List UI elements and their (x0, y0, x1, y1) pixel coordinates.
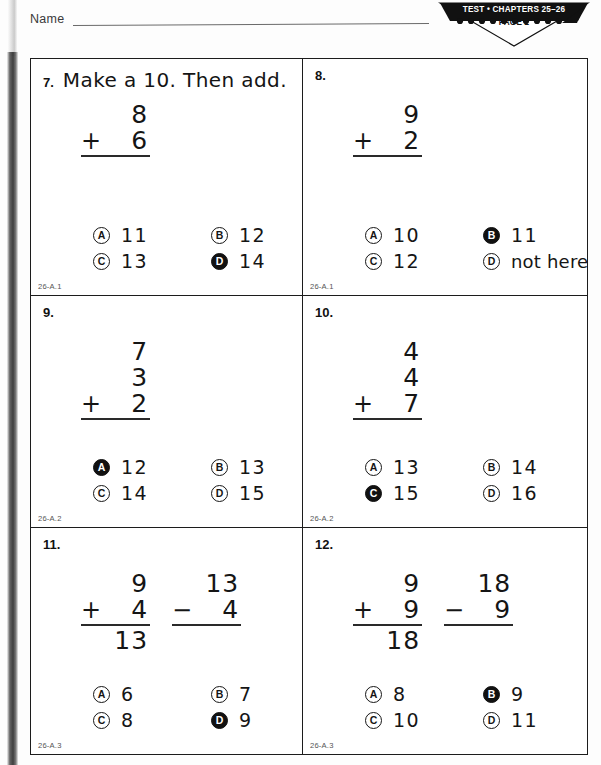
answer-choice-b[interactable]: B11 (483, 224, 538, 246)
answer-choice-c[interactable]: C14 (93, 482, 211, 504)
addend-bottom: 6 (118, 128, 148, 154)
choice-bubble-a[interactable]: A (365, 459, 382, 476)
answer-choice-a[interactable]: A6 (93, 683, 211, 705)
choice-label-c: 13 (121, 250, 148, 272)
answer-choices: A11B12C13D14 (31, 222, 302, 274)
choice-bubble-a[interactable]: A (93, 686, 110, 703)
problem-answer-slot[interactable] (81, 159, 150, 185)
answer-choice-a[interactable]: A12 (93, 456, 211, 478)
problem-group: 9+2 (353, 102, 577, 185)
addend-bottom: 2 (118, 391, 148, 417)
choice-bubble-c[interactable]: C (93, 712, 110, 729)
addend-middle: 3 (118, 365, 148, 391)
choice-bubble-a[interactable]: A (93, 459, 110, 476)
vertical-problem: 9+2 (353, 102, 422, 185)
answer-choice-a[interactable]: A11 (93, 224, 211, 246)
answer-choice-c[interactable]: C13 (93, 250, 211, 272)
problem-answer-slot[interactable] (81, 422, 150, 448)
choice-bubble-d[interactable]: D (211, 712, 228, 729)
answer-choice-d[interactable]: D9 (211, 709, 252, 731)
choice-bubble-a[interactable]: A (93, 227, 110, 244)
choice-bubble-d[interactable]: D (483, 253, 500, 270)
problem-top-row: 18 (444, 571, 513, 597)
problem-group: 9+41313−4 (81, 571, 292, 654)
choice-bubble-b[interactable]: B (211, 459, 228, 476)
choice-bubble-d[interactable]: D (483, 712, 500, 729)
answer-choice-a[interactable]: A10 (365, 224, 483, 246)
choice-bubble-b[interactable]: B (483, 686, 500, 703)
answer-choice-c[interactable]: C8 (93, 709, 211, 731)
addend-middle: 4 (390, 365, 420, 391)
problem-bottom-row: +6 (81, 128, 150, 154)
choice-bubble-d[interactable]: D (483, 485, 500, 502)
problem-answer-slot[interactable] (172, 628, 241, 654)
answer-choice-c[interactable]: C10 (365, 709, 483, 731)
question-prompt: Make a 10. Then add. (63, 68, 287, 92)
problem-answer-slot[interactable]: 13 (81, 628, 150, 654)
choice-bubble-c[interactable]: C (365, 712, 382, 729)
choice-row: A11B12 (93, 222, 294, 248)
answer-choice-b[interactable]: B7 (211, 683, 252, 705)
choice-bubble-c[interactable]: C (93, 485, 110, 502)
choice-bubble-c[interactable]: C (365, 253, 382, 270)
problem-answer-slot[interactable] (353, 159, 422, 185)
page-header: Name TEST • CHAPTERS 25–26 PAGE 2 (0, 0, 601, 52)
answer-choice-b[interactable]: B14 (483, 456, 538, 478)
addend-top: 7 (118, 339, 148, 365)
choice-row: A10B11 (365, 222, 579, 248)
problem-middle-row: 3 (81, 365, 150, 391)
choice-label-a: 12 (121, 456, 148, 478)
answer-choice-b[interactable]: B9 (483, 683, 524, 705)
question-number: 10. (315, 305, 333, 320)
operator-symbol: + (81, 392, 102, 416)
question-number: 7. (43, 75, 54, 90)
addend-top: 9 (390, 102, 420, 128)
choice-bubble-b[interactable]: B (483, 459, 500, 476)
answer-choice-a[interactable]: A8 (365, 683, 483, 705)
answer-choice-d[interactable]: Dnot here (483, 251, 587, 272)
choice-bubble-a[interactable]: A (365, 686, 382, 703)
problem-answer-slot[interactable]: 18 (353, 628, 422, 654)
choice-bubble-b[interactable]: B (211, 227, 228, 244)
answer-choice-d[interactable]: D14 (211, 250, 266, 272)
problem-answer-slot[interactable] (353, 422, 422, 448)
answer-choice-c[interactable]: C12 (365, 250, 483, 272)
name-write-line[interactable] (73, 23, 429, 26)
choice-bubble-c[interactable]: C (365, 485, 382, 502)
vertical-problem: 9+413 (81, 571, 150, 654)
operator-symbol: − (172, 598, 193, 622)
problem-answer-slot[interactable] (444, 628, 513, 654)
choice-bubble-a[interactable]: A (365, 227, 382, 244)
problem-bottom-row: +2 (353, 128, 422, 154)
addend-bottom: 4 (209, 597, 239, 623)
choice-bubble-d[interactable]: D (211, 485, 228, 502)
choice-label-d: not here (511, 251, 587, 272)
problem-group: 73+2 (81, 339, 292, 448)
problem-top-row: 13 (172, 571, 241, 597)
choice-bubble-c[interactable]: C (93, 253, 110, 270)
vertical-problem: 8+6 (81, 102, 150, 185)
answer-choices: A13B14C15D16 (303, 454, 587, 506)
answer-choice-b[interactable]: B12 (211, 224, 266, 246)
choice-label-c: 8 (121, 709, 134, 731)
choice-bubble-b[interactable]: B (483, 227, 500, 244)
question-heading: 12. (315, 537, 577, 559)
question-heading: 8. (315, 68, 577, 90)
answer-choice-d[interactable]: D16 (483, 482, 538, 504)
answer-choice-a[interactable]: A13 (365, 456, 483, 478)
choice-bubble-d[interactable]: D (211, 253, 228, 270)
answer-choice-c[interactable]: C15 (365, 482, 483, 504)
choice-row: A6B7 (93, 681, 294, 707)
answer-choice-b[interactable]: B13 (211, 456, 266, 478)
addend-bottom: 7 (390, 391, 420, 417)
problem-top-row: 9 (81, 571, 150, 597)
problem-group: 44+7 (353, 339, 577, 448)
choice-row: C10D11 (365, 707, 579, 733)
answer-choice-d[interactable]: D15 (211, 482, 266, 504)
addend-bottom: 9 (481, 597, 511, 623)
vertical-problem: 44+7 (353, 339, 422, 448)
answer-choice-d[interactable]: D11 (483, 709, 538, 731)
choice-bubble-b[interactable]: B (211, 686, 228, 703)
problem-sum (209, 628, 239, 654)
question-heading: 7.Make a 10. Then add. (43, 68, 292, 90)
